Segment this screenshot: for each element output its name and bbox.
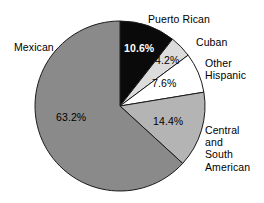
slice-value-mexican: 63.2% (56, 111, 86, 123)
slice-label-central-south-american: CentralandSouthAmerican (205, 124, 250, 173)
slice-label-mexican-text: Mexican (14, 41, 54, 53)
slice-label-central-line4: American (205, 161, 250, 173)
slice-label-central-line3: South (205, 148, 250, 160)
slice-label-central-line1: Central (205, 124, 250, 136)
slice-value-cuban: 4.2% (155, 54, 179, 66)
slice-label-other-hispanic-line2: Hispanic (205, 69, 246, 81)
slice-value-other-hispanic: 7.6% (152, 77, 176, 89)
pie-slice-group (35, 21, 205, 191)
slice-label-mexican: Mexican (14, 41, 54, 53)
slice-label-cuban: Cuban (196, 36, 227, 48)
slice-label-central-line2: and (205, 136, 250, 148)
slice-label-puerto-rican: Puerto Rican (148, 13, 210, 25)
slice-value-puerto-rican: 10.6% (124, 42, 154, 54)
slice-label-other-hispanic: OtherHispanic (205, 57, 246, 81)
pie-chart-figure: Mexican Puerto Rican Cuban OtherHispanic… (0, 0, 264, 203)
slice-label-cuban-text: Cuban (196, 36, 227, 48)
slice-label-puerto-rican-text: Puerto Rican (148, 13, 210, 25)
slice-value-central-south-american: 14.4% (153, 115, 183, 127)
slice-label-other-hispanic-line1: Other (205, 57, 246, 69)
